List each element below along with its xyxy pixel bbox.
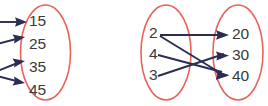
figure-svg: 15 25 35 45	[0, 0, 268, 106]
arrow-to-35-head	[13, 59, 26, 68]
arrow-2-to-20-head	[216, 30, 229, 40]
right-diagram-element-30: 30	[232, 46, 250, 63]
right-diagram-element-3: 3	[149, 66, 158, 83]
mapping-diagrams-figure: 15 25 35 45	[0, 0, 268, 106]
left-mapping-diagram-partial: 15 25 35 45	[0, 5, 71, 100]
arrow-3-to-30-head	[216, 52, 229, 61]
left-diagram-element-15: 15	[29, 12, 46, 29]
right-diagram-element-4: 4	[149, 45, 158, 62]
right-diagram-element-20: 20	[232, 25, 250, 42]
right-diagram-element-40: 40	[232, 67, 250, 84]
left-diagram-element-35: 35	[29, 58, 46, 75]
right-mapping-diagram: 2 4 3 20 30 40	[141, 5, 263, 100]
right-diagram-element-2: 2	[149, 24, 158, 41]
left-diagram-element-25: 25	[29, 35, 46, 52]
arrow-4-to-40-head	[216, 71, 229, 80]
left-diagram-element-45: 45	[29, 81, 46, 98]
